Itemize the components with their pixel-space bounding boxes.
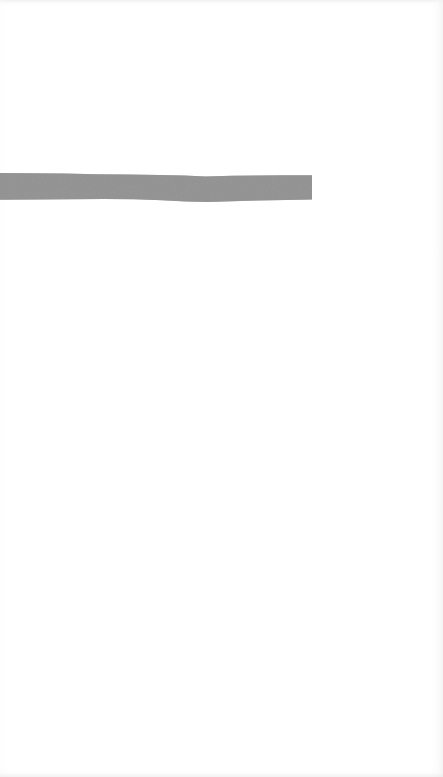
scanned-page-canvas xyxy=(0,0,443,777)
scan-noise-bottom-band xyxy=(0,770,443,777)
marker-stroke-svg xyxy=(0,0,443,777)
marker-stroke-layer xyxy=(0,0,443,777)
marker-stroke-group xyxy=(0,173,312,202)
marker-stroke-grain-path xyxy=(0,173,312,202)
